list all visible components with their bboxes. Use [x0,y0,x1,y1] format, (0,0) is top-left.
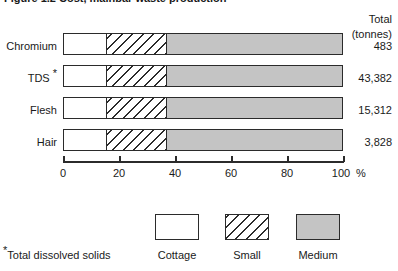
bar-hair [63,129,343,151]
category-label-tds-text: TDS [28,72,50,84]
legend-label-cottage: Cottage [143,250,211,261]
legend-label-medium: Medium [284,250,352,261]
x-axis-tick-20 [119,156,121,162]
bar-flesh [63,97,343,119]
legend-swatch-small [225,214,269,240]
bar-segment-small [106,34,167,54]
x-axis-label-40: 40 [160,168,190,179]
category-label-tds-footnote-marker: * [53,67,57,79]
legend-swatch-medium [296,214,340,240]
x-axis-label-20: 20 [104,168,134,179]
bar-segment-small [106,98,167,118]
total-value-tds: 43,382 [358,73,392,84]
x-axis-tick-60 [231,156,233,162]
footnote: *Total dissolved solids [3,250,111,261]
category-label-hair: Hair [37,137,57,148]
category-label-tds: TDS * [28,73,57,84]
legend-label-small: Small [213,250,281,261]
footnote-text: Total dissolved solids [7,249,110,261]
bar-tds [63,65,343,87]
totals-header-line1: Total [369,14,392,25]
x-axis-label-100: 100 [326,168,356,179]
x-axis-label-60: 60 [216,168,246,179]
x-axis-tick-0 [63,156,65,162]
totals-header-line2: (tonnes) [352,29,392,40]
category-label-chromium: Chromium [6,41,57,52]
bar-segment-small [106,130,167,150]
bar-segment-cottage [64,34,106,54]
bar-segment-cottage [64,66,106,86]
category-label-flesh: Flesh [30,105,57,116]
x-axis-line [63,161,344,163]
x-axis-tick-100 [343,156,345,162]
bar-segment-small [106,66,167,86]
x-axis-tick-80 [287,156,289,162]
x-axis-tick-40 [175,156,177,162]
bar-segment-cottage [64,130,106,150]
bar-segment-cottage [64,98,106,118]
bar-segment-medium [167,66,342,86]
x-axis-label-0: 0 [48,168,78,179]
total-value-hair: 3,828 [364,137,392,148]
legend-swatch-cottage [155,214,199,240]
x-axis-label-80: 80 [272,168,302,179]
bar-chromium [63,33,343,55]
bar-segment-medium [167,130,342,150]
chart-plot-area: Total (tonnes) Chromium 483 TDS * 43,382… [0,0,398,271]
total-value-chromium: 483 [374,41,392,52]
bar-segment-medium [167,98,342,118]
bar-segment-medium [167,34,342,54]
x-axis-unit: % [356,168,366,179]
total-value-flesh: 15,312 [358,105,392,116]
